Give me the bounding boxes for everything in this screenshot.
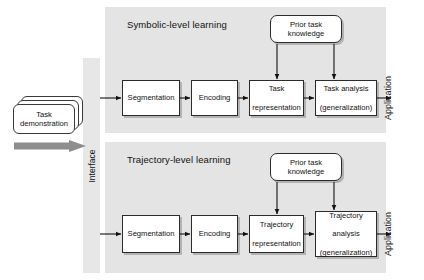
- step-label-symbolic-representation-line2: representation: [252, 103, 301, 112]
- output-label-application-trajectory: Application: [383, 212, 393, 256]
- step-box-trajectory-encoding: Encoding: [191, 215, 238, 253]
- prior-task-knowledge-box-symbolic: Prior task knowledge: [270, 15, 342, 43]
- step-box-trajectory-representation: Trajectory representation: [249, 215, 304, 253]
- panel-title-symbolic: Symbolic-level learning: [127, 19, 227, 30]
- step-box-trajectory-segmentation: Segmentation: [122, 215, 180, 253]
- interface-label: Interface: [87, 149, 97, 182]
- diagram-canvas: Symbolic-level learning Trajectory-level…: [0, 0, 424, 280]
- step-label-symbolic-encoding: Encoding: [199, 93, 231, 102]
- step-label-symbolic-representation-line1: Task: [252, 84, 301, 93]
- step-box-symbolic-segmentation: Segmentation: [122, 80, 180, 116]
- panel-title-trajectory: Trajectory-level learning: [127, 154, 231, 165]
- step-label-symbolic-segmentation: Segmentation: [128, 93, 175, 102]
- step-label-trajectory-analysis-line2: analysis: [320, 229, 372, 238]
- step-label-trajectory-analysis-line3: (generalization): [320, 248, 372, 257]
- task-demonstration-stack: Task demonstration: [13, 96, 85, 136]
- prior-knowledge-line2-symbolic: knowledge: [288, 29, 324, 38]
- step-label-trajectory-segmentation: Segmentation: [128, 229, 175, 238]
- demo-label-line2: demonstration: [20, 119, 68, 128]
- output-label-application-symbolic: Application: [383, 76, 393, 120]
- step-label-trajectory-analysis-line1: Trajectory: [320, 211, 372, 220]
- interface-band: Interface: [83, 58, 100, 273]
- demo-label-line1: Task: [36, 110, 52, 119]
- step-label-trajectory-representation-line1: Trajectory: [252, 220, 301, 229]
- step-box-symbolic-task-analysis: Task analysis (generalization): [315, 80, 377, 116]
- step-label-symbolic-analysis-line1: Task analysis: [320, 84, 372, 93]
- step-box-trajectory-analysis: Trajectory analysis (generalization): [315, 211, 377, 257]
- step-label-symbolic-analysis-line2: (generalization): [320, 103, 372, 112]
- step-box-symbolic-encoding: Encoding: [191, 80, 238, 116]
- demo-card-front: Task demonstration: [13, 104, 75, 134]
- thick-gray-right-arrow-icon: [14, 138, 86, 150]
- step-label-trajectory-representation-line2: representation: [252, 239, 301, 248]
- prior-knowledge-line1-symbolic: Prior task: [290, 20, 322, 29]
- prior-knowledge-line1-trajectory: Prior task: [290, 158, 322, 167]
- step-box-symbolic-task-representation: Task representation: [249, 80, 304, 116]
- prior-knowledge-line2-trajectory: knowledge: [288, 167, 324, 176]
- prior-task-knowledge-box-trajectory: Prior task knowledge: [270, 153, 342, 181]
- step-label-trajectory-encoding: Encoding: [199, 229, 231, 238]
